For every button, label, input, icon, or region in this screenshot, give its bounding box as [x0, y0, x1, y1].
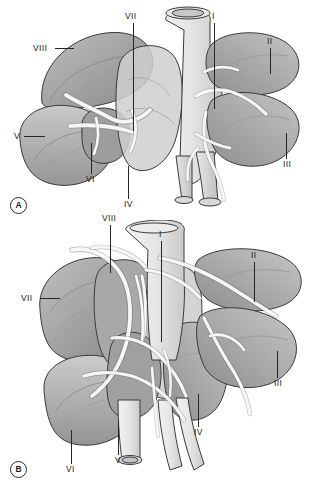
leader-a-ii [270, 48, 271, 74]
label-a-iii: III [283, 160, 291, 169]
label-b-i: I [159, 230, 162, 239]
leader-b-v [118, 420, 119, 455]
segment-iii-b [197, 308, 297, 388]
label-b-ii: II [251, 251, 257, 260]
label-a-i: I [212, 12, 215, 21]
leader-b-i [161, 241, 162, 342]
label-a-iv: IV [124, 200, 133, 209]
leader-a-i [214, 23, 215, 109]
leader-b-ii [254, 262, 255, 302]
label-b-iii: III [274, 379, 282, 388]
panel-b: VIII I II VII III IV V VI B [0, 220, 313, 486]
leader-a-viii [55, 48, 74, 49]
segment-ii-a [206, 33, 299, 95]
label-b-vi: VI [66, 465, 75, 474]
label-b-viii: VIII [102, 214, 116, 223]
label-a-viii: VIII [33, 44, 47, 53]
label-a-vii: VII [125, 12, 137, 21]
panel-marker-b: B [10, 461, 27, 478]
label-b-v: V [115, 456, 121, 465]
leader-b-vii [40, 298, 60, 299]
segment-ii-b [195, 249, 302, 311]
leader-a-vi [91, 143, 92, 174]
leader-b-viii [110, 225, 111, 273]
leader-a-iv [128, 166, 129, 199]
leader-b-iv [198, 394, 199, 427]
leader-b-vi [71, 430, 72, 464]
panel-b-artwork [0, 220, 313, 486]
anatomical-figure: VIII VII I II III V VI IV A [0, 0, 313, 486]
leader-a-vii [133, 23, 134, 131]
label-a-v: V [14, 132, 20, 141]
panel-a: VIII VII I II III V VI IV A [0, 0, 313, 220]
leader-b-iii [277, 351, 278, 378]
bronchus-left-b [118, 400, 140, 460]
label-a-vi: VI [86, 175, 95, 184]
panel-a-artwork [0, 0, 313, 220]
leader-a-iii [286, 133, 287, 159]
label-a-ii: II [267, 37, 273, 46]
panel-marker-a: A [10, 197, 27, 214]
label-b-iv: IV [194, 428, 203, 437]
label-b-vii: VII [21, 294, 33, 303]
leader-a-v [24, 136, 45, 137]
